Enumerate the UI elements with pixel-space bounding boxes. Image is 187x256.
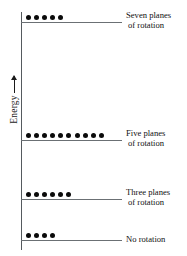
electron-dot — [42, 192, 47, 197]
level-label-line2: of rotation — [126, 139, 165, 149]
electron-dot — [34, 133, 39, 138]
level-label-five-planes: Five planes of rotation — [126, 129, 165, 148]
energy-level-five-planes — [21, 140, 122, 141]
level-line — [21, 199, 122, 200]
energy-level-no-rotation — [21, 240, 122, 241]
up-arrow-icon — [14, 76, 15, 93]
electron-dot — [26, 133, 31, 138]
level-line — [21, 22, 122, 23]
electron-dot — [99, 133, 104, 138]
electron-dot — [66, 133, 71, 138]
electron-dot — [66, 192, 71, 197]
level-label-line2: of rotation — [126, 198, 170, 208]
electron-dot — [42, 15, 47, 20]
level-line — [21, 240, 122, 241]
energy-level-diagram: Energy Seven planes of rotation Five pla… — [0, 0, 187, 256]
level-label-three-planes: Three planes of rotation — [126, 188, 170, 207]
level-label-line1: Three planes — [126, 187, 170, 197]
energy-axis-label-text: Energy — [9, 95, 19, 123]
electron-dot — [50, 233, 55, 238]
electron-dot — [50, 15, 55, 20]
electron-dot — [26, 15, 31, 20]
electron-dot — [26, 192, 31, 197]
electron-row — [26, 133, 104, 138]
electron-dot — [58, 192, 63, 197]
level-label-seven-planes: Seven planes of rotation — [126, 11, 171, 30]
electron-dot — [83, 133, 88, 138]
electron-dot — [50, 133, 55, 138]
level-line — [21, 140, 122, 141]
energy-level-three-planes — [21, 199, 122, 200]
electron-dot — [42, 233, 47, 238]
level-label-line2: of rotation — [126, 21, 171, 31]
electron-dot — [58, 15, 63, 20]
electron-dot — [50, 192, 55, 197]
electron-dot — [58, 133, 63, 138]
level-label-line1: No rotation — [126, 234, 165, 244]
electron-dot — [26, 233, 31, 238]
electron-dot — [42, 133, 47, 138]
energy-axis-label: Energy — [6, 62, 22, 138]
level-label-no-rotation: No rotation — [126, 235, 165, 245]
level-label-line1: Seven planes — [126, 10, 171, 20]
electron-dot — [91, 133, 96, 138]
electron-dot — [34, 192, 39, 197]
electron-dot — [75, 133, 80, 138]
electron-row — [26, 192, 71, 197]
energy-level-seven-planes — [21, 22, 122, 23]
electron-row — [26, 233, 55, 238]
electron-dot — [34, 233, 39, 238]
level-label-line1: Five planes — [126, 128, 165, 138]
electron-row — [26, 15, 63, 20]
electron-dot — [34, 15, 39, 20]
